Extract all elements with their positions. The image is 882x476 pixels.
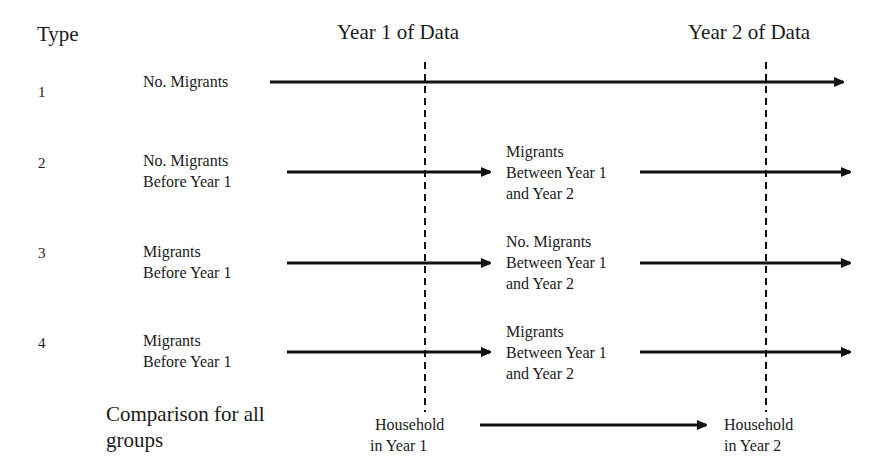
row2-stage2: Migrants Between Year 1 and Year 2	[506, 141, 607, 204]
row3-stage2: No. Migrants Between Year 1 and Year 2	[506, 231, 607, 294]
row3-type: 3	[38, 245, 46, 262]
row1-type: 1	[38, 84, 46, 101]
row2-stage1: No. Migrants Before Year 1	[143, 150, 231, 192]
household-year2: Household in Year 2	[724, 414, 793, 456]
comparison-label: Comparison for all groups	[106, 401, 265, 453]
row4-stage2: Migrants Between Year 1 and Year 2	[506, 321, 607, 384]
year1-header: Year 1 of Data	[337, 20, 459, 44]
row2-type: 2	[38, 155, 46, 172]
household-year1: Household in Year 1	[370, 414, 444, 456]
type-header: Type	[37, 22, 79, 46]
row4-type: 4	[38, 335, 46, 352]
row3-stage1: Migrants Before Year 1	[143, 241, 231, 283]
row1-stage1: No. Migrants	[143, 71, 228, 92]
year2-header: Year 2 of Data	[688, 20, 810, 44]
row4-stage1: Migrants Before Year 1	[143, 330, 231, 372]
